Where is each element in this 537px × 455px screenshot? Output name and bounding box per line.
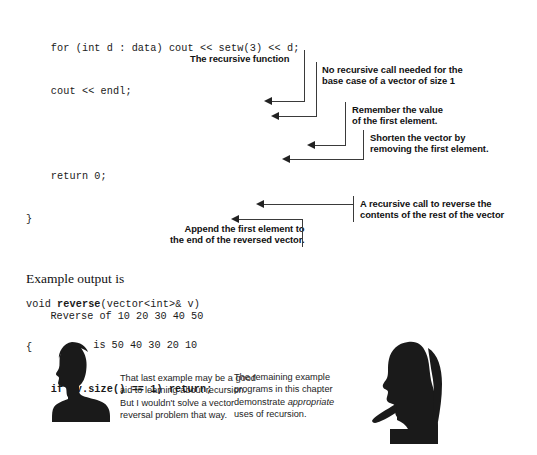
code-line — [26, 426, 299, 440]
speech-bubble-right: The remaining example programs in this c… — [234, 358, 384, 421]
arrowhead-recursive-function — [264, 97, 272, 105]
code-line: cout << endl; — [26, 85, 299, 99]
page-canvas: for (int d : data) cout << setw(3) << d;… — [0, 0, 537, 455]
callout-append-element: Append the first element to the end of t… — [170, 223, 304, 246]
leader-line-shorten-vector-horizontal — [290, 159, 364, 160]
leader-line-append-element-vertical — [302, 219, 303, 247]
example-output-heading: Example output is — [26, 271, 124, 287]
arrowhead-base-case — [271, 112, 279, 120]
arrowhead-remember-value — [307, 141, 315, 149]
leader-line-base-case-horizontal — [279, 116, 317, 117]
leader-line-shorten-vector-vertical — [363, 130, 364, 160]
leader-line-recursive-function-horizontal — [272, 101, 305, 102]
callout-shorten-vector: Shorten the vector by removing the first… — [370, 132, 488, 155]
male-silhouette-icon — [52, 342, 114, 422]
leader-line-recursive-function-vertical — [304, 50, 305, 102]
leader-line-remember-value-vertical — [345, 102, 346, 146]
arrowhead-shorten-vector — [282, 155, 290, 163]
leader-line-remember-value-horizontal — [315, 145, 346, 146]
callout-base-case: No recursive call needed for the base ca… — [322, 64, 463, 87]
callout-remember-value: Remember the value of the first element. — [352, 104, 443, 127]
leader-line-base-case-vertical — [316, 62, 317, 117]
code-line — [26, 128, 299, 142]
female-silhouette-icon — [372, 340, 458, 444]
speech-text-right-after: uses of recursion. — [234, 409, 307, 419]
callout-recursive-call: A recursive call to reverse the contents… — [360, 198, 504, 221]
arrowhead-recursive-call — [256, 200, 264, 208]
leader-line-recursive-call-vertical — [353, 196, 354, 222]
code-line — [26, 255, 299, 269]
callout-recursive-function: The recursive function — [190, 53, 289, 64]
arrowhead-append-element — [231, 215, 239, 223]
example-output-line: Reverse of 10 20 30 40 50 — [50, 311, 203, 322]
speech-text-right-emphasis: appropriate — [288, 397, 334, 407]
leader-line-recursive-call-horizontal — [264, 204, 354, 205]
code-line: return 0; — [26, 170, 299, 184]
leader-line-append-element-horizontal — [239, 219, 303, 220]
